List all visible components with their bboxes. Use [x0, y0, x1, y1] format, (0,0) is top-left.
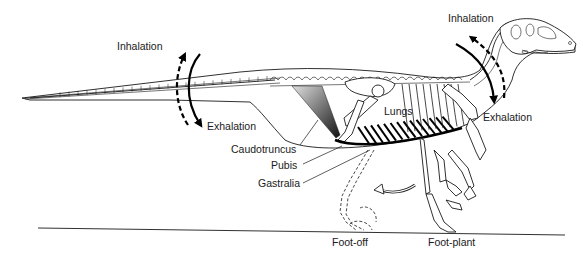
skull	[500, 19, 576, 55]
dinosaur-breathing-diagram: Inhalation Exhalation Inhalation Exhalat…	[0, 0, 583, 258]
arm-bones	[466, 118, 486, 160]
ilium-bone	[345, 78, 395, 97]
scapula-bone	[442, 84, 478, 120]
label-foot-off: Foot-off	[332, 236, 368, 248]
pubis-bone	[338, 100, 364, 142]
label-caudotruncus: Caudotruncus	[231, 143, 296, 155]
label-foot-plant: Foot-plant	[428, 236, 475, 248]
tail-exhalation-arrow	[189, 54, 200, 124]
label-exhalation-neck: Exhalation	[483, 111, 532, 123]
caudotruncus-leader	[300, 120, 318, 145]
tail-segment-ticks	[60, 76, 267, 97]
neck-inhalation-arrow	[472, 38, 504, 98]
gastralia-leader	[303, 150, 370, 183]
neck-vertebrae	[470, 28, 505, 80]
label-inhalation-neck: Inhalation	[448, 12, 494, 24]
label-pubis: Pubis	[271, 159, 297, 171]
label-gastralia: Gastralia	[258, 177, 300, 189]
leg-swing-arrowhead	[374, 184, 384, 194]
ground-line	[38, 228, 565, 235]
label-exhalation-tail: Exhalation	[207, 120, 256, 132]
belly-line	[335, 128, 462, 144]
tail-inhalation-arrow	[177, 56, 188, 125]
gastralia-rib	[358, 127, 370, 145]
label-inhalation-tail: Inhalation	[117, 40, 163, 52]
label-lungs: Lungs	[384, 105, 413, 117]
caudotruncus-muscle	[292, 86, 340, 138]
pubis-leader	[303, 146, 342, 164]
planted-leg	[420, 138, 476, 232]
tail-vertebrae	[25, 78, 280, 99]
hip-socket	[372, 85, 384, 97]
